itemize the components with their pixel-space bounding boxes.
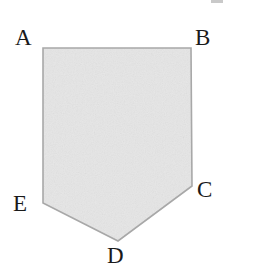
vertex-label-a: A bbox=[15, 26, 32, 49]
vertex-label-b: B bbox=[195, 26, 210, 49]
vertex-label-d: D bbox=[107, 244, 124, 267]
figure-canvas: A B C D E bbox=[0, 0, 259, 279]
pentagon-diagram-svg bbox=[0, 0, 259, 279]
pentagon-texture-overlay bbox=[43, 48, 192, 241]
page-crop-artifact bbox=[211, 0, 223, 3]
vertex-label-e: E bbox=[13, 192, 27, 215]
vertex-label-c: C bbox=[197, 178, 212, 201]
